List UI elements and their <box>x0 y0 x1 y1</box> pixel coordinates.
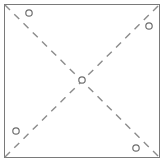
marker-bottom-left <box>13 128 19 134</box>
diagram-svg <box>0 0 166 163</box>
marker-top-left <box>26 10 32 16</box>
marker-top-right <box>146 23 152 29</box>
marker-bottom-right <box>133 145 139 151</box>
marker-center <box>79 77 85 83</box>
diagram-container <box>0 0 166 163</box>
